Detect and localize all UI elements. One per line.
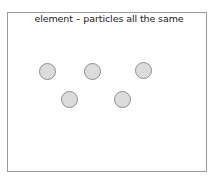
particle-circle <box>135 62 152 79</box>
diagram-frame <box>7 12 207 172</box>
particle-circle <box>84 63 101 80</box>
diagram-title: element – particles all the same <box>0 13 212 24</box>
particle-circle <box>39 63 56 80</box>
particle-circle <box>61 91 78 108</box>
particle-circle <box>114 91 131 108</box>
